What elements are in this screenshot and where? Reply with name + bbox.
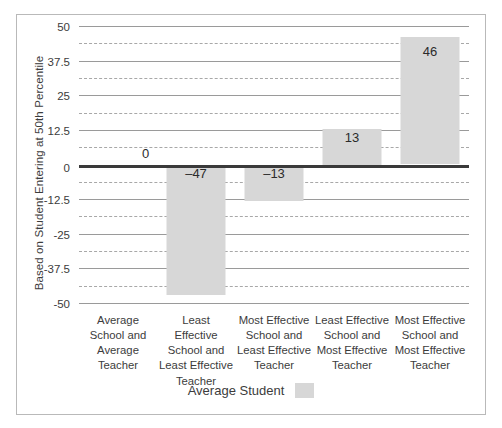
bar-value-label: –13	[263, 166, 285, 181]
category-line: Least Effective	[158, 358, 234, 373]
category-line: Average	[80, 343, 156, 358]
category-line: Effective	[158, 328, 234, 343]
y-tick-label-37p5: 37.5	[48, 56, 70, 68]
legend-swatch-average-student	[295, 383, 314, 398]
category-line: Least	[158, 313, 234, 328]
category-label-least-school-most-teacher: Least Effective School and Most Effectiv…	[313, 305, 391, 389]
category-line: Teacher	[314, 358, 390, 373]
bar-value-label: 13	[345, 130, 359, 145]
y-tick-label-50: 50	[57, 21, 70, 33]
category-line: School and	[314, 328, 390, 343]
y-tick-label-0: 0	[64, 162, 70, 174]
y-tick-label-neg50: -50	[53, 298, 70, 310]
category-label-most-school-most-teacher: Most Effective School and Most Effective…	[391, 305, 469, 389]
y-tick-label-neg12p5: -12.5	[44, 194, 70, 206]
chart-legend: Average Student	[17, 383, 485, 398]
plot-area: 50 37.5 25 12.5 0 -12.5 -25 -37.5	[79, 26, 469, 303]
chart-figure: Based on Student Entering at 50th Percen…	[16, 14, 486, 415]
category-line: Teacher	[236, 358, 312, 373]
category-axis: Average School and Average Teacher Least…	[79, 305, 469, 389]
y-tick-label-neg37p5: -37.5	[44, 263, 70, 275]
category-line: Least Effective	[236, 343, 312, 358]
category-line: Teacher	[80, 358, 156, 373]
category-line: Teacher	[392, 358, 468, 373]
category-line: Most Effective	[314, 343, 390, 358]
bar-value-label: –47	[185, 166, 207, 181]
legend-label-average-student: Average Student	[188, 383, 285, 398]
category-line: School and	[158, 343, 234, 358]
bar-value-label: 0	[142, 146, 149, 161]
category-line: School and	[80, 328, 156, 343]
category-line: Most Effective	[392, 313, 468, 328]
y-tick-label-25: 25	[57, 90, 70, 102]
y-tick-label-neg25: -25	[53, 229, 70, 241]
category-label-most-school-least-teacher: Most Effective School and Least Effectiv…	[235, 305, 313, 389]
category-line: School and	[236, 328, 312, 343]
bar-value-label: 46	[423, 44, 437, 59]
gridline-major-neg50: -50	[79, 303, 469, 304]
y-axis-title: Based on Student Entering at 50th Percen…	[33, 23, 45, 323]
gridline-zero: 0	[79, 165, 469, 168]
bar-rect	[167, 165, 226, 295]
y-tick-label-12p5: 12.5	[48, 125, 70, 137]
category-line: Most Effective	[236, 313, 312, 328]
category-label-least-school-least-teacher: Least Effective School and Least Effecti…	[157, 305, 235, 389]
category-line: Average	[80, 313, 156, 328]
category-line: Most Effective	[392, 343, 468, 358]
category-line: School and	[392, 328, 468, 343]
category-label-average-school-average-teacher: Average School and Average Teacher	[79, 305, 157, 389]
category-line: Least Effective	[314, 313, 390, 328]
